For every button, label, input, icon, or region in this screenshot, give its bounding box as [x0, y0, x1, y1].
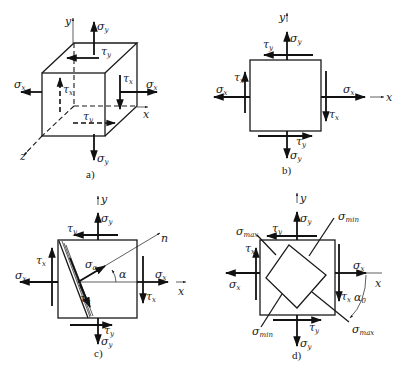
sigma-y-top-label: σy	[97, 20, 110, 34]
sigma-x-left-label: σx	[15, 269, 27, 283]
tau-y-bottom-label: τy	[296, 135, 307, 149]
y-axis-label: y	[100, 193, 108, 206]
panel-b: y x σy τy σx τx σx τx τy σy b)	[214, 11, 393, 177]
cube-front-face	[42, 73, 105, 136]
tau-x-left-label: τx	[234, 71, 244, 85]
stress-state-figure: y x z σy τy σx τx τx σx τy σy a) y x σy …	[0, 0, 398, 371]
tau-y-top-label: τy	[263, 38, 274, 52]
tau-y-top-label: τy	[101, 45, 112, 59]
panel-c-caption: c)	[94, 347, 103, 360]
alpha-label: α	[119, 268, 127, 281]
alpha-angle-arc	[112, 270, 116, 282]
panel-c: y x n α σy τy σx τx σx τx σα τα τy σy c)	[15, 193, 186, 360]
z-axis-label: z	[19, 150, 26, 163]
tau-x-right-label: τx	[341, 290, 351, 304]
panel-a-caption: a)	[86, 168, 95, 181]
sigma-y-top-label: σy	[101, 212, 114, 226]
tau-y-bottom-label: τy	[83, 110, 94, 124]
sigma-x-left-label: σx	[216, 83, 228, 97]
sigma-x-left-label: σx	[229, 278, 241, 292]
sigma-min-lower-line	[261, 294, 282, 327]
sigma-max-lower-label: σmax	[352, 323, 374, 337]
sigma-x-left-label: σx	[14, 78, 26, 92]
hidden-edge	[42, 106, 74, 136]
y-axis-label: y	[64, 15, 72, 28]
panel-d-caption: d)	[292, 349, 302, 362]
x-axis-label: x	[143, 108, 150, 121]
sigma-min-upper-label: σmin	[338, 210, 359, 224]
tau-y-bottom-label: τy	[309, 321, 320, 335]
sigma-y-top-label: σy	[300, 212, 313, 226]
tau-x-right-label: τx	[329, 108, 339, 122]
sigma-x-right-label: σx	[343, 83, 355, 97]
y-axis-label: y	[299, 192, 307, 205]
x-axis-label: x	[375, 277, 382, 290]
sigma-x-right-label: σx	[155, 268, 167, 282]
sigma-x-right-label: σx	[146, 78, 158, 92]
sigma-y-bottom-label: σy	[290, 149, 303, 163]
sigma-alpha-label: σα	[85, 258, 98, 272]
panel-d: y x α0 σy τy σx τx σx τx σmax σmin σmin …	[226, 192, 382, 362]
sigma-max-upper-label: σmax	[236, 225, 258, 239]
element-square	[250, 60, 321, 131]
panel-b-caption: b)	[282, 164, 292, 177]
y-axis-label: y	[278, 11, 286, 24]
sigma-y-top-label: σy	[290, 32, 303, 46]
tau-y-top-label: τy	[67, 222, 78, 236]
tau-x-right-label: τx	[146, 290, 156, 304]
n-axis-label: n	[161, 232, 168, 245]
alpha0-label: α0	[354, 291, 366, 305]
sigma-x-right-label: σx	[353, 259, 365, 273]
sigma-min-lower-label: σmin	[252, 325, 273, 339]
tau-x-left-label: τx	[63, 83, 73, 97]
x-axis-label: x	[386, 91, 393, 104]
tau-x-left-label: τx	[245, 242, 255, 256]
panel-a: y x z σy τy σx τx τx σx τy σy a)	[14, 15, 158, 181]
tau-x-right-label: τx	[123, 72, 133, 86]
tau-x-left-label: τx	[36, 254, 46, 268]
sigma-y-bottom-label: σy	[97, 152, 110, 166]
sigma-y-bottom-label: σy	[300, 337, 313, 351]
tau-y-top-label: τy	[272, 222, 283, 236]
tau-alpha-label: τα	[80, 292, 91, 306]
x-axis-label: x	[178, 285, 185, 298]
sigma-min-upper-line	[309, 218, 334, 256]
